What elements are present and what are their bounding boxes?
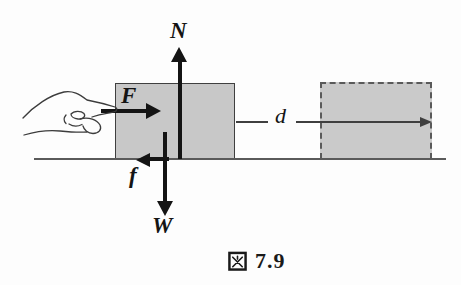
- friction-force-arrow: [150, 157, 169, 161]
- applied-force-arrowhead: [146, 103, 161, 119]
- normal-force-label: N: [170, 19, 187, 42]
- friction-force-label: f: [129, 164, 137, 187]
- displacement-arrowhead: [420, 117, 432, 127]
- displacement-line-right: [296, 121, 421, 123]
- friction-force-arrowhead: [136, 153, 150, 167]
- normal-force-arrow: [178, 60, 182, 159]
- physics-figure: d N W F f 7.9: [0, 0, 461, 285]
- normal-force-arrowhead: [171, 47, 187, 62]
- zu-kanji-icon: [228, 251, 247, 271]
- hand-knuckle-line: [64, 115, 82, 126]
- hand-curled-finger: [71, 111, 85, 119]
- hand-bottom: [24, 131, 87, 135]
- hand-top-and-finger: [23, 92, 117, 118]
- weight-arrow: [163, 132, 167, 202]
- displacement-label: d: [275, 105, 286, 127]
- figure-caption-number: 7.9: [255, 248, 286, 274]
- ground-line: [34, 158, 446, 160]
- figure-caption: 7.9: [228, 248, 286, 274]
- applied-force-label: F: [121, 84, 136, 107]
- applied-force-arrow: [101, 109, 147, 113]
- hand-thumb: [80, 118, 101, 133]
- displacement-line-left: [236, 121, 268, 123]
- weight-label: W: [152, 214, 172, 237]
